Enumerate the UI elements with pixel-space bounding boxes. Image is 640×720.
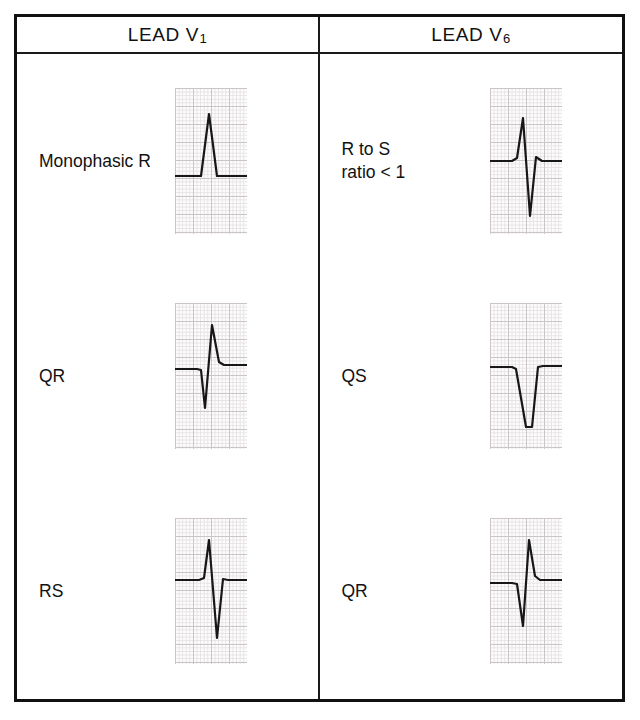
waveform-label-qs-v6: QS [342, 365, 367, 388]
table-row: Monophasic R [17, 54, 318, 269]
table-body: Monophasic R QR [17, 54, 622, 699]
ecg-trace-rs-ratio-less-than-1 [490, 88, 562, 234]
column-lead-v1: Monophasic R QR [17, 54, 320, 699]
ecg-trace-path [490, 540, 562, 626]
ecg-strip-v6-qr [490, 518, 562, 664]
column-header-lead-v1: LEAD V1 [17, 17, 320, 52]
ecg-trace-path [175, 325, 247, 408]
ecg-reference-figure: LEAD V1 LEAD V6 Monophasic R [0, 0, 640, 720]
ecg-trace-path [175, 114, 247, 176]
ecg-trace-qr-v6 [490, 518, 562, 664]
column-lead-v6: R to S ratio < 1 QS [320, 54, 623, 699]
ecg-strip-v1-qr [175, 303, 247, 449]
column-header-lead-v6-text: LEAD V [431, 24, 502, 46]
ecg-trace-rs [175, 518, 247, 664]
ecg-strip-v6-rs-ratio [490, 88, 562, 234]
table-row: QS [320, 269, 623, 484]
ecg-trace-path [490, 366, 562, 427]
ecg-trace-path [175, 540, 247, 638]
ecg-trace-path [490, 118, 562, 216]
ecg-trace-monophasic-r [175, 88, 247, 234]
table-row: QR [320, 484, 623, 699]
ecg-strip-v1-monophasic-r [175, 88, 247, 234]
waveform-label-qr-v1: QR [39, 365, 65, 388]
column-header-lead-v1-text: LEAD V [128, 24, 199, 46]
ecg-strip-v1-rs [175, 518, 247, 664]
waveform-label-rs-v1: RS [39, 580, 63, 603]
table-header-row: LEAD V1 LEAD V6 [17, 17, 622, 54]
table-row: QR [17, 269, 318, 484]
table-row: R to S ratio < 1 [320, 54, 623, 269]
waveform-label-r-to-s-ratio: R to S ratio < 1 [342, 138, 406, 184]
ecg-trace-qr [175, 303, 247, 449]
column-header-lead-v6: LEAD V6 [320, 17, 623, 52]
column-header-lead-v1-subscript: 1 [199, 31, 207, 46]
ecg-strip-v6-qs [490, 303, 562, 449]
waveform-label-qr-v6: QR [342, 580, 368, 603]
comparison-table: LEAD V1 LEAD V6 Monophasic R [14, 14, 625, 702]
waveform-label-monophasic-r: Monophasic R [39, 150, 151, 173]
ecg-trace-qs [490, 303, 562, 449]
table-row: RS [17, 484, 318, 699]
column-header-lead-v6-subscript: 6 [503, 31, 511, 46]
